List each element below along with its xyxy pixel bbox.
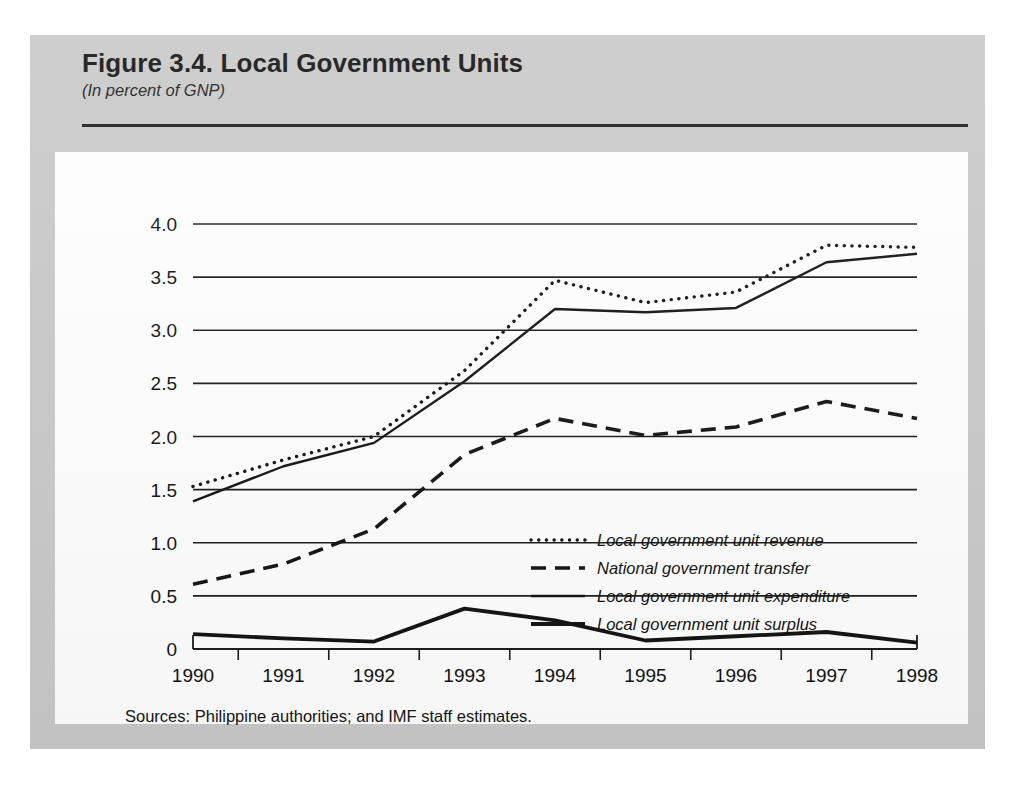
legend-label: Local government unit revenue	[597, 531, 824, 549]
figure-panel: Figure 3.4. Local Government Units (In p…	[30, 35, 985, 749]
x-tick-labels: 199019911992199319941995199619971998	[172, 665, 938, 686]
x-tick-label: 1990	[172, 665, 214, 686]
chart-legend: Local government unit revenueNational go…	[531, 531, 850, 633]
line-chart: 00.51.01.52.02.53.03.54.0199019911992199…	[55, 152, 968, 724]
y-tick-label: 0.5	[151, 586, 177, 607]
y-tick-label: 2.0	[151, 427, 177, 448]
figure-subtitle: (In percent of GNP)	[82, 81, 972, 99]
x-tick-label: 1992	[353, 665, 395, 686]
x-tick-label: 1991	[262, 665, 304, 686]
y-tick-label: 1.0	[151, 533, 177, 554]
y-tick-label: 0	[166, 639, 177, 660]
y-tick-label: 3.0	[151, 320, 177, 341]
x-tick-label: 1997	[805, 665, 847, 686]
legend-label: National government transfer	[597, 559, 811, 577]
x-tick-label: 1998	[896, 665, 938, 686]
series-line	[193, 245, 917, 486]
y-tick-label: 3.5	[151, 267, 177, 288]
x-tick-label: 1994	[534, 665, 577, 686]
chart-svg: 00.51.01.52.02.53.03.54.0199019911992199…	[55, 152, 968, 724]
figure-root: Figure 3.4. Local Government Units (In p…	[0, 0, 1017, 792]
series-line	[193, 254, 917, 502]
legend-label: Local government unit surplus	[597, 615, 817, 633]
series-line	[193, 401, 917, 584]
title-block: Figure 3.4. Local Government Units (In p…	[82, 49, 972, 99]
legend-label: Local government unit expenditure	[597, 587, 850, 605]
page-title: Figure 3.4. Local Government Units	[82, 49, 972, 78]
chart-card: 00.51.01.52.02.53.03.54.0199019911992199…	[55, 152, 968, 724]
x-tick-label: 1993	[443, 665, 485, 686]
x-tick-label: 1996	[715, 665, 757, 686]
series-group	[193, 245, 917, 642]
source-note: Sources: Philippine authorities; and IMF…	[125, 707, 532, 726]
y-tick-label: 2.5	[151, 373, 177, 394]
y-tick-label: 4.0	[151, 214, 177, 235]
x-tick-label: 1995	[624, 665, 666, 686]
title-divider	[82, 124, 968, 127]
y-tick-label: 1.5	[151, 480, 177, 501]
